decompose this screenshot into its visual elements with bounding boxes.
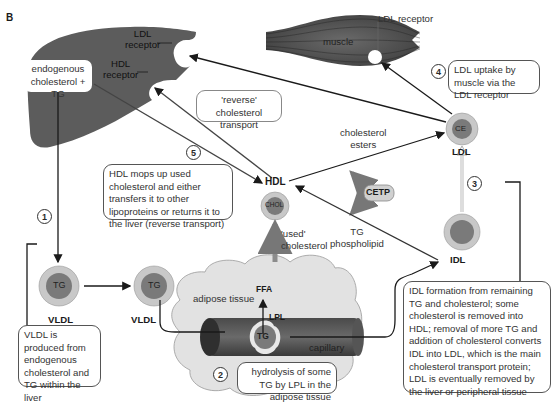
vldl1-core-label: TG: [53, 280, 66, 290]
muscle-label: muscle: [323, 36, 353, 47]
ldl-label: LDL: [452, 146, 471, 157]
adipose-tg-label: TG: [257, 331, 269, 341]
idl-particle: [444, 214, 480, 250]
cholesterol-esters-label: cholesterol esters: [340, 127, 386, 151]
liver-hdl-receptor-label: HDL receptor: [103, 58, 138, 80]
step-1-box: VLDL is produced from endogenous cholest…: [18, 325, 101, 387]
step-3-box: IDL formation from remaining TG and chol…: [403, 281, 551, 393]
idl-label: IDL: [450, 254, 465, 265]
tg-phospholipid-label: TG phospholipid: [330, 226, 384, 250]
reverse-transport-box: 'reverse' cholesterol transport: [196, 90, 282, 122]
muscle-ldl-receptor-label: LDL receptor: [378, 13, 433, 24]
liver-ldl-receptor-label: LDL receptor: [125, 28, 160, 50]
tg-text: TG: [330, 226, 384, 238]
ldl-core-label: CE: [455, 124, 466, 133]
hdl-label: HDL: [265, 176, 286, 187]
step-3-number: 3: [467, 176, 482, 191]
capillary-label: capillary: [309, 342, 344, 353]
step-5-number: 5: [186, 145, 201, 160]
cetp-label: CETP: [366, 187, 390, 197]
step-4-box: LDL uptake by muscle via the LDL recepto…: [448, 60, 540, 94]
step-2-number: 2: [213, 367, 228, 382]
lpl-label: LPL: [269, 312, 285, 322]
phospholipid-text: phospholipid: [330, 238, 384, 250]
step-1-number: 1: [37, 209, 52, 224]
step-5-box: HDL mops up used cholesterol and either …: [103, 164, 233, 220]
used-cholesterol-label: 'used' cholesterol: [281, 228, 327, 252]
cholesterol-esters-text-1: cholesterol: [340, 127, 386, 139]
hdl-receptor-text: HDL: [103, 58, 138, 69]
figure-label: B: [6, 12, 13, 23]
step-2-box: hydrolysis of some TG by LPL in the adip…: [237, 362, 337, 394]
vldl2-core-label: TG: [148, 280, 161, 290]
ldl-receptor-text: LDL: [125, 28, 160, 39]
adipose-tissue-label: adipose tissue: [193, 293, 254, 304]
used-text: 'used': [281, 228, 327, 240]
hdl-core-label: CHOL: [265, 201, 283, 208]
vldl1-label: VLDL: [48, 314, 73, 325]
step-4-number: 4: [431, 64, 446, 79]
ldl-receptor-text-2: receptor: [125, 39, 160, 50]
vldl2-label: VLDL: [131, 314, 156, 325]
cholesterol-esters-text-2: esters: [340, 139, 386, 151]
cholesterol-text: cholesterol: [281, 240, 327, 252]
hdl-receptor-text-2: receptor: [103, 69, 138, 80]
ffa-label: FFA: [256, 284, 272, 294]
endogenous-box: endogenous cholesterol + TG: [24, 60, 92, 92]
